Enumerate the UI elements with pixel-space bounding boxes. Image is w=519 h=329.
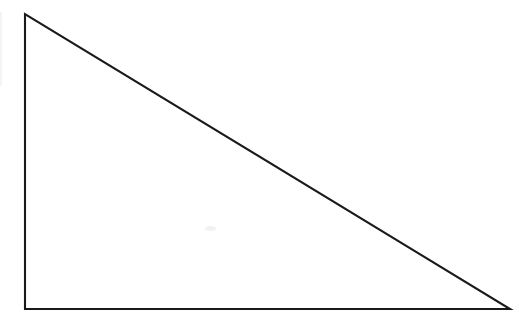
figure-canvas (0, 0, 519, 329)
figure-background (0, 0, 519, 329)
triangle-figure (0, 0, 519, 329)
left-edge-streak-artifact (0, 12, 2, 86)
center-smudge-artifact (205, 226, 216, 231)
